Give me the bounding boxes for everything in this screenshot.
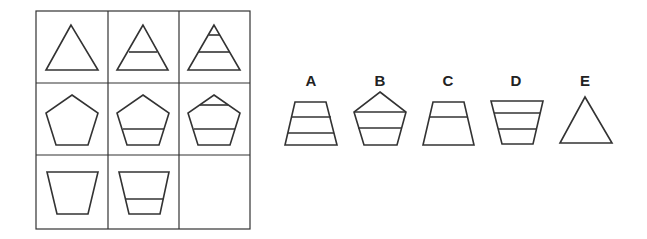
option-e-label[interactable]: E (580, 72, 590, 89)
cell-r1c2-triangle (117, 25, 168, 70)
option-c-shape[interactable] (423, 102, 474, 145)
cell-r2c3-pentagon (188, 95, 240, 145)
option-d-shape[interactable] (491, 101, 543, 144)
cell-r1c3-triangle (188, 25, 240, 70)
option-d-label[interactable]: D (511, 72, 522, 89)
cell-r1c1-triangle (46, 25, 98, 70)
grid (36, 11, 250, 229)
option-e-shape[interactable] (560, 97, 612, 143)
puzzle-figure (0, 0, 647, 239)
cell-r2c2-pentagon (117, 95, 169, 145)
cell-r3c2-inverted-trapezoid (119, 172, 169, 214)
option-b-shape[interactable] (354, 92, 406, 145)
cell-r3c1-inverted-trapezoid (47, 172, 98, 214)
cell-r2c1-pentagon (46, 95, 98, 145)
option-b-label[interactable]: B (375, 72, 386, 89)
option-a-label[interactable]: A (306, 72, 317, 89)
option-c-label[interactable]: C (443, 72, 454, 89)
option-a-shape[interactable] (285, 102, 337, 145)
